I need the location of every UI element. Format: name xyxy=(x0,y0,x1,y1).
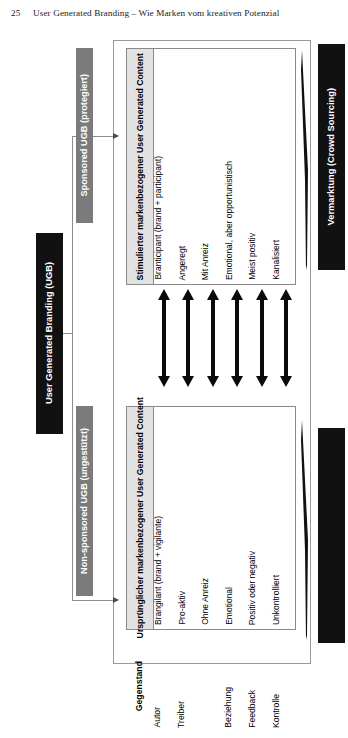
connector-arm-lower-table xyxy=(93,600,114,601)
table-cell: Meist positiv xyxy=(248,233,272,280)
table-cell-label: Unkontrolliert xyxy=(272,575,282,625)
table-cell: Kanalisiert xyxy=(272,240,296,280)
thin-arrow-icon-upper xyxy=(300,50,314,270)
table-cell: Ohne Anreiz xyxy=(201,578,225,625)
table-cell: Pro-aktiv xyxy=(178,591,202,625)
arrowhead-icon-upper xyxy=(113,133,119,139)
branch-box-non-sponsored-ugb: Non-sponsored UGB (ungestützt) xyxy=(76,406,93,596)
table-cell: Branticipant (brand + participant) xyxy=(154,156,178,280)
legend-cell: Autor xyxy=(153,707,177,728)
table-cell: Brangilant (brand + vigilante) xyxy=(154,516,178,625)
legend-cell: Beziehung xyxy=(224,687,248,728)
table-cell-label: Positiv oder negativ xyxy=(248,551,258,625)
table-cell-label: Emotional xyxy=(225,587,235,625)
double-arrow-icon xyxy=(231,289,243,387)
table-cell: Unkontrolliert xyxy=(272,575,296,625)
table-cell-label: Meist positiv xyxy=(248,233,258,280)
table-body-upper: Branticipant (brand + participant) Anger… xyxy=(154,49,295,284)
connector-spine xyxy=(72,136,73,600)
legend-cell-label: Treiber xyxy=(177,701,187,728)
legend-header-cell: Gegenstand xyxy=(126,640,153,732)
table-cell: Angeregt xyxy=(178,246,202,281)
table-cell: Emotional xyxy=(225,587,249,625)
table-cell-label: Ohne Anreiz xyxy=(201,578,211,625)
legend-cell-label: Autor xyxy=(153,707,163,728)
table-cell-label: Mit Anreiz xyxy=(201,243,211,280)
connector-branch-non-sponsored xyxy=(72,600,93,601)
thin-arrow-icon-lower xyxy=(300,420,314,640)
double-arrow-icon xyxy=(280,289,292,387)
table-header-label-upper: Stimulierter markenbezogener User Genera… xyxy=(135,53,146,280)
arrowhead-icon-lower xyxy=(113,597,119,603)
legend-cell: Treiber xyxy=(177,701,201,728)
page-number: 25 xyxy=(11,8,20,18)
root-box-label: User Generated Branding (UGB) xyxy=(44,262,54,404)
bidirectional-arrow-band xyxy=(152,289,298,387)
table-cell-label: Branticipant (brand + participant) xyxy=(154,156,164,280)
page-title: User Generated Branding – Wie Marken vom… xyxy=(33,8,279,18)
legend-cell-label: Beziehung xyxy=(224,687,234,728)
legend-header-label: Gegenstand xyxy=(134,661,145,711)
table-urspruenglicher-ugc: Ursprünglicher markenbezogener User Gene… xyxy=(126,406,296,630)
legend-cell-label: Feedback xyxy=(248,690,258,728)
table-header-label-lower: Ursprünglicher markenbezogener User Gene… xyxy=(135,397,146,638)
outcome-box-vermarktung-secondary xyxy=(318,428,345,643)
table-cell: Mit Anreiz xyxy=(201,243,225,280)
root-box-user-generated-branding: User Generated Branding (UGB) xyxy=(36,233,63,434)
table-cell-label: Angeregt xyxy=(178,246,188,281)
branch-box-sponsored-label: Sponsored UGB (protegiert) xyxy=(79,74,89,197)
legend-cell-label: Kontrolle xyxy=(272,694,282,728)
legend-cell: Kontrolle xyxy=(272,694,296,728)
outcome-box-vermarktung: Vermarktung (Crowd Sourcing) xyxy=(318,44,345,270)
legend-body: Autor Treiber Beziehung Feedback Kontrol… xyxy=(153,640,296,732)
diagram-page: 25 User Generated Branding – Wie Marken … xyxy=(0,0,348,738)
branch-box-non-sponsored-label: Non-sponsored UGB (ungestützt) xyxy=(79,428,89,574)
legend-cell: Feedback xyxy=(248,690,272,728)
table-cell-label: Brangilant (brand + vigilante) xyxy=(154,516,164,625)
outcome-box-vermarktung-label: Vermarktung (Crowd Sourcing) xyxy=(326,88,336,225)
table-cell: Positiv oder negativ xyxy=(248,551,272,625)
table-gegenstand-legend: Gegenstand Autor Treiber Beziehung Feedb… xyxy=(126,640,296,732)
table-stimulierter-ugc: Stimulierter markenbezogener User Genera… xyxy=(126,48,296,285)
table-cell-label: Emotional, aber opportunistisch xyxy=(225,161,235,280)
double-arrow-icon xyxy=(182,289,194,387)
table-cell-label: Pro-aktiv xyxy=(178,591,188,625)
connector-arm-upper-table xyxy=(93,136,114,137)
table-header-cell-lower: Ursprünglicher markenbezogener User Gene… xyxy=(127,407,154,629)
table-cell: Emotional, aber opportunistisch xyxy=(225,161,249,280)
double-arrow-icon xyxy=(256,289,268,387)
double-arrow-icon xyxy=(158,289,170,387)
table-cell-label: Kanalisiert xyxy=(272,240,282,280)
double-arrow-icon xyxy=(207,289,219,387)
branch-box-sponsored-ugb: Sponsored UGB (protegiert) xyxy=(76,48,93,223)
table-header-cell-upper: Stimulierter markenbezogener User Genera… xyxy=(127,49,154,284)
table-body-lower: Brangilant (brand + vigilante) Pro-aktiv… xyxy=(154,407,295,629)
